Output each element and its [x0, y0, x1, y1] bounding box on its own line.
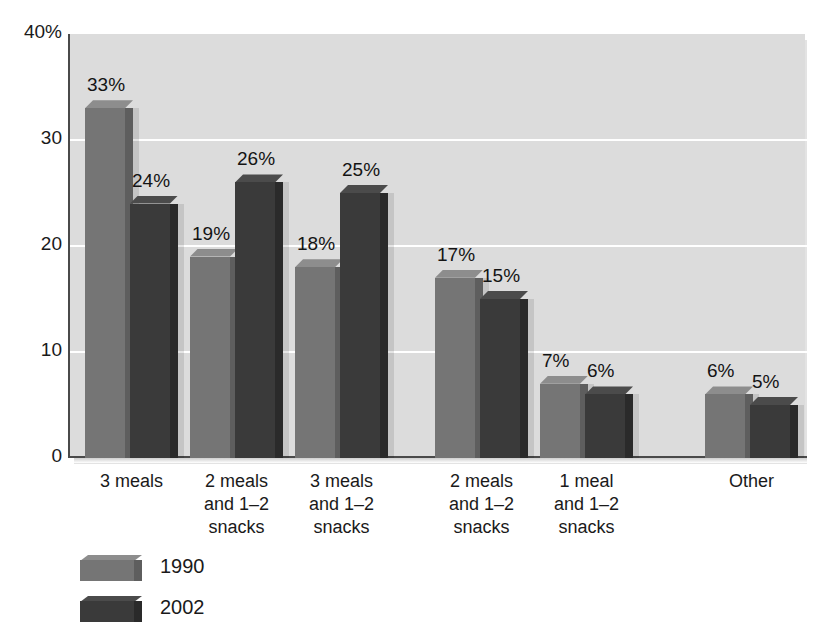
bar-shadow: [388, 193, 394, 458]
legend-item-label: 2002: [160, 596, 205, 619]
bar-top-face: [340, 185, 388, 193]
bar-top-face: [705, 386, 753, 394]
bar-top-face: [295, 259, 343, 267]
category-label-line: Other: [679, 470, 824, 493]
bar[interactable]: [295, 259, 343, 458]
bar[interactable]: [750, 397, 798, 458]
bar-value-label: 33%: [87, 74, 125, 96]
bar-top-face: [435, 270, 483, 278]
bar[interactable]: [85, 100, 133, 458]
bar-top-face: [750, 397, 798, 405]
bar[interactable]: [480, 291, 528, 458]
category-label-line: snacks: [269, 516, 414, 539]
bar[interactable]: [190, 249, 238, 458]
x-axis-category-label: Other: [679, 470, 824, 493]
bar[interactable]: [585, 386, 633, 458]
legend-swatch-front-face: [80, 601, 134, 622]
bar-side-face: [275, 182, 283, 458]
gridline: [70, 139, 807, 141]
legend-swatch-side-face: [134, 560, 142, 581]
bar[interactable]: [540, 376, 588, 458]
legend-color-swatch: [80, 555, 142, 581]
bar-front-face: [705, 394, 745, 458]
bar-top-face: [190, 249, 238, 257]
category-label-line: 1 meal: [514, 470, 659, 493]
bar[interactable]: [130, 196, 178, 458]
y-axis-tick-label: 30: [6, 127, 62, 149]
bar-value-label: 6%: [707, 360, 734, 382]
legend-swatch-side-face: [134, 601, 142, 622]
bar-side-face: [170, 204, 178, 458]
bar[interactable]: [705, 386, 753, 458]
x-axis-category-label: 3 mealsand 1–2snacks: [269, 470, 414, 539]
bar-shadow: [798, 405, 804, 458]
bar-shadow: [178, 204, 184, 458]
bar-side-face: [790, 405, 798, 458]
bar-side-face: [520, 299, 528, 458]
bar-top-face: [480, 291, 528, 299]
bar-value-label: 15%: [482, 265, 520, 287]
category-label-line: and 1–2: [269, 493, 414, 516]
y-axis-tick-label: 20: [6, 233, 62, 255]
bar-front-face: [190, 257, 230, 458]
bar-value-label: 25%: [342, 159, 380, 181]
bar[interactable]: [435, 270, 483, 458]
bar-front-face: [235, 182, 275, 458]
bar-side-face: [625, 394, 633, 458]
bar-top-face: [130, 196, 178, 204]
legend-item-label: 1990: [160, 555, 205, 578]
bar-shadow: [528, 299, 534, 458]
x-axis-shadow: [74, 458, 807, 463]
bar-value-label: 7%: [542, 350, 569, 372]
bar-front-face: [435, 278, 475, 458]
bar-value-label: 24%: [132, 170, 170, 192]
bar-front-face: [540, 384, 580, 458]
x-axis-category-label: 1 mealand 1–2snacks: [514, 470, 659, 539]
bar-front-face: [750, 405, 790, 458]
bar-front-face: [480, 299, 520, 458]
bar-value-label: 17%: [437, 244, 475, 266]
bar-shadow: [633, 394, 639, 458]
category-label-line: snacks: [514, 516, 659, 539]
bar-value-label: 18%: [297, 233, 335, 255]
bar[interactable]: [235, 174, 283, 458]
bar-value-label: 6%: [587, 360, 614, 382]
legend-color-swatch: [80, 596, 142, 622]
bar-front-face: [295, 267, 335, 458]
bar-front-face: [85, 108, 125, 458]
bar-value-label: 5%: [752, 371, 779, 393]
y-axis-tick-labels: 010203040%: [0, 0, 62, 641]
bar[interactable]: [340, 185, 388, 458]
bar-top-face: [85, 100, 133, 108]
y-axis-tick-label: 10: [6, 339, 62, 361]
bar-side-face: [380, 193, 388, 458]
bar-front-face: [130, 204, 170, 458]
bar-shadow: [283, 182, 289, 458]
legend-swatch-front-face: [80, 560, 134, 581]
category-label-line: 3 meals: [269, 470, 414, 493]
category-label-line: and 1–2: [514, 493, 659, 516]
bar-top-face: [585, 386, 633, 394]
bar-value-label: 26%: [237, 148, 275, 170]
bar-value-label: 19%: [192, 223, 230, 245]
bar-front-face: [585, 394, 625, 458]
bar-top-face: [235, 174, 283, 182]
y-axis-tick-label: 0: [6, 445, 62, 467]
bar-top-face: [540, 376, 588, 384]
bar-front-face: [340, 193, 380, 458]
bar-chart: 010203040% 33%24%19%26%18%25%17%15%7%6%6…: [0, 0, 824, 641]
y-axis-tick-label: 40%: [6, 21, 62, 43]
